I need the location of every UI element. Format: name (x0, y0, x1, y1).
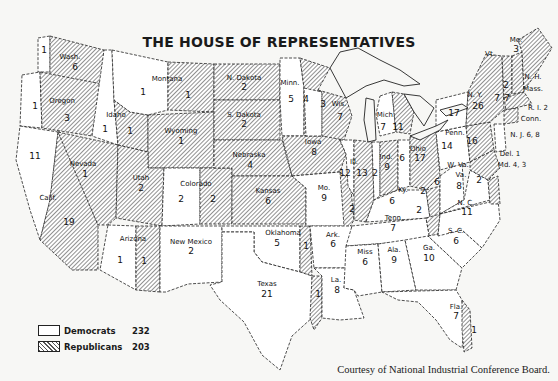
value-wis-dem: 3 (320, 99, 326, 109)
label-md: Md. 4, 3 (498, 161, 526, 169)
value-newmexico-dem: 2 (188, 246, 194, 256)
value-wyoming-rep: 1 (178, 136, 184, 146)
value-wash-dem: 1 (41, 45, 47, 55)
republicans-swatch (38, 341, 60, 352)
legend-republicans: Republicans 203 (38, 340, 150, 353)
value-wash-rep: 6 (72, 62, 78, 72)
label-ark: Ark. (326, 231, 340, 239)
label-ind: Ind. (379, 153, 392, 161)
value-va-dem: 8 (456, 181, 462, 191)
value-nevada-rep: 1 (82, 169, 88, 179)
label-fla: Fla. (450, 303, 463, 311)
state-conn (504, 108, 518, 124)
value-ill-rep: 13 (356, 168, 367, 178)
label-vt: Vt. (485, 50, 495, 58)
value-ky-dem: 6 (389, 196, 395, 206)
value-ill-dem: 12 (339, 168, 350, 178)
legend: Democrats 232 Republicans 203 (38, 324, 150, 356)
state-sdakota-rep (214, 100, 280, 140)
label-nebraska: Nebraska (232, 151, 265, 159)
value-arizona-dem: 1 (117, 255, 123, 265)
label-texas: Texas (257, 280, 276, 288)
label-sc: S. C. (448, 227, 464, 235)
value-texas-rep: 1 (315, 289, 321, 299)
value-oklahoma-dem: 5 (274, 238, 280, 248)
label-utah: Utah (133, 174, 150, 182)
value-ind-rep: 9 (384, 162, 390, 172)
label-ny: N. Y. (468, 91, 483, 99)
label-ri: R. I. 2 (528, 104, 548, 112)
value-ind-dem: 2 (372, 168, 378, 178)
value-wva-dem: 6 (434, 177, 440, 187)
label-ga: Ga. (423, 244, 435, 252)
value-ohio-rep: 17 (414, 153, 425, 163)
value-colorado-rep: 2 (210, 194, 216, 204)
label-wva: W. Va. (447, 161, 468, 169)
label-nh: N. H. (524, 73, 541, 81)
value-oregon-rep: 3 (64, 113, 70, 123)
label-calif: Calif. (39, 194, 56, 202)
label-oregon: Oregon (49, 97, 75, 105)
state-colorado-rep (200, 168, 232, 224)
value-miss-dem: 6 (362, 257, 368, 267)
label-colorado: Colorado (180, 180, 211, 188)
republicans-label: Republicans (64, 342, 132, 352)
label-montana: Montana (152, 75, 183, 83)
value-oregon-dem: 1 (32, 101, 38, 111)
value-la-dem: 8 (334, 285, 340, 295)
label-oklahoma: Oklahoma (265, 229, 301, 237)
label-idaho: Idaho (106, 111, 126, 119)
value-mich-dem: 7 (380, 122, 386, 132)
value-colorado-dem: 2 (178, 194, 184, 204)
value-mich-rep: 11 (392, 122, 403, 132)
value-sdakota-rep: 2 (241, 119, 247, 129)
value-tenn-dem: 7 (390, 223, 396, 233)
value-fla-rep: 1 (471, 325, 477, 335)
value-wis-rep: 7 (337, 112, 343, 122)
label-arizona: Arizona (120, 235, 146, 243)
value-tenn-rep: 2 (416, 205, 422, 215)
democrats-swatch (38, 325, 60, 336)
value-ky-rep: 2 (420, 186, 426, 196)
state-texas-rep (310, 276, 322, 330)
value-texas-dem: 21 (261, 289, 272, 299)
label-iowa: Iowa (305, 138, 321, 146)
value-nebraska-rep: 4 (247, 160, 253, 170)
value-mo-dem: 9 (321, 193, 327, 203)
value-penn-rep: 16 (466, 136, 477, 146)
state-fla-dem (382, 290, 464, 348)
label-ky: Ky. (398, 186, 407, 194)
value-mass-rep: 7 (504, 93, 510, 103)
republicans-count: 203 (132, 342, 150, 352)
state-ohio-dem (398, 140, 410, 190)
state-oklahoma-rep (300, 226, 312, 276)
label-kansas: Kansas (256, 187, 281, 195)
value-fla-dem: 7 (453, 311, 459, 321)
label-nevada: Nevada (70, 160, 97, 168)
value-ga-dem: 10 (423, 253, 434, 263)
value-ohio-dem: 6 (399, 153, 405, 163)
label-del: Del. 1 (500, 150, 521, 158)
lake-michigan (364, 98, 376, 142)
value-ndakota-rep: 2 (241, 82, 247, 92)
state-montana-rep (168, 62, 214, 112)
value-ny-dem: 17 (448, 108, 459, 118)
value-oklahoma-rep: 1 (303, 241, 309, 251)
lake-superior (330, 48, 420, 98)
label-me: Me. (510, 36, 523, 44)
value-minn-dem: 5 (288, 94, 294, 104)
state-newmexico-dem (160, 226, 222, 292)
democrats-count: 232 (132, 326, 150, 336)
label-wash: Wash. (59, 53, 80, 61)
label-mich: Mich. (377, 111, 396, 119)
value-me-rep: 3 (513, 44, 519, 54)
value-ala-dem: 9 (391, 255, 397, 265)
value-ark-dem: 6 (330, 239, 336, 249)
value-nh-rep: 2 (503, 80, 509, 90)
value-calif-dem: 11 (29, 151, 40, 161)
value-va-rep: 2 (476, 175, 482, 185)
state-ny-rep (466, 54, 504, 126)
value-nc-dem: 11 (461, 207, 472, 217)
credit-line: Courtesy of National Industrial Conferen… (337, 364, 550, 375)
label-la: La. (331, 276, 341, 284)
